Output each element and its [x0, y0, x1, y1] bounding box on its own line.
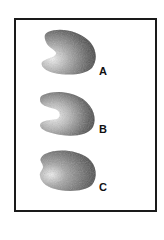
grain-shape-b-icon — [37, 89, 99, 137]
specimen-c-image — [37, 148, 99, 192]
specimen-label-b: B — [99, 124, 107, 135]
specimen-label-a: A — [99, 66, 107, 77]
grain-shape-a-icon — [38, 28, 98, 76]
grain-shape-c-icon — [37, 148, 99, 192]
specimen-b-image — [37, 89, 99, 137]
specimen-a-image — [38, 28, 98, 76]
specimen-label-c: C — [99, 182, 107, 193]
